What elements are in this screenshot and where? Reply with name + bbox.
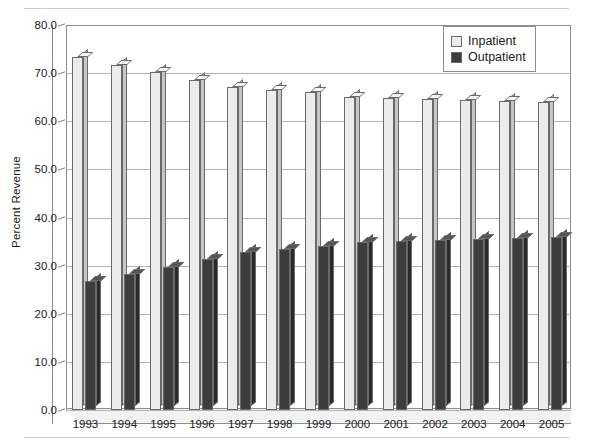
y-axis-tick-label: 10.0 (35, 356, 57, 368)
bar-side (290, 241, 295, 406)
y-axis-tick-mark (58, 119, 65, 123)
bar-face (189, 80, 200, 410)
bar-outpatient-2004 (512, 238, 523, 410)
bar-face (72, 57, 83, 410)
bar-top (504, 96, 520, 101)
bar-outpatient-1999 (318, 246, 329, 410)
y-axis-tick-mark (58, 168, 65, 172)
bar-face (266, 90, 277, 410)
bar-top (310, 87, 326, 92)
bar-side (523, 230, 528, 406)
bar-side (368, 234, 373, 406)
bar-top (271, 85, 287, 90)
bar-face (111, 65, 122, 410)
bar-side (407, 233, 412, 406)
bar-side (251, 244, 256, 406)
y-axis-title: Percent Revenue (10, 122, 22, 282)
bar-inpatient-2000 (344, 97, 355, 410)
bar-group (377, 25, 416, 410)
y-axis-tick-label: 80.0 (35, 19, 57, 31)
plot-area: 80.070.060.050.040.030.020.010.00.0 (66, 25, 571, 410)
bar-side (174, 259, 179, 406)
bar-face (85, 281, 96, 410)
bar-side (135, 266, 140, 406)
y-axis-tick-label: 0.0 (41, 404, 57, 416)
bar-group (338, 25, 377, 410)
bar-face (422, 99, 433, 410)
bar-group (260, 25, 299, 410)
bar-group (454, 25, 493, 410)
bar-group (493, 25, 532, 410)
y-axis-tick-mark (58, 312, 65, 316)
bar-outpatient-1997 (240, 252, 251, 410)
y-axis-tick-label: 20.0 (35, 308, 57, 320)
bar-face (435, 240, 446, 410)
bar-top (232, 82, 248, 87)
bar-face (357, 242, 368, 410)
bottom-divider-rule (24, 437, 569, 438)
bar-inpatient-1997 (227, 87, 238, 410)
bar-face (460, 100, 471, 410)
bar-face (512, 238, 523, 410)
bar-group (144, 25, 183, 410)
bar-inpatient-1996 (189, 80, 200, 410)
gridline (66, 410, 571, 411)
bar-inpatient-2004 (499, 101, 510, 410)
bar-top (427, 94, 443, 99)
bar-group (183, 25, 222, 410)
bar-face (383, 98, 394, 410)
legend-label: Outpatient (468, 50, 526, 64)
bar-outpatient-2001 (396, 241, 407, 410)
bar-inpatient-1995 (150, 72, 161, 410)
bar-top (543, 97, 559, 102)
bar-face (240, 252, 251, 410)
bar-outpatient-2002 (435, 240, 446, 410)
bar-face (551, 237, 562, 410)
bar-outpatient-1994 (124, 274, 135, 410)
bar-group (221, 25, 260, 410)
bar-top (465, 95, 481, 100)
bar-face (202, 259, 213, 410)
bar-face (344, 97, 355, 410)
bar-face (318, 246, 329, 410)
bar-face (396, 241, 407, 410)
bar-side (96, 273, 101, 406)
y-axis-tick-mark (58, 360, 65, 364)
bar-inpatient-2005 (538, 102, 549, 410)
bar-face (227, 87, 238, 410)
bar-inpatient-1999 (305, 92, 316, 410)
chart-legend: InpatientOutpatient (443, 26, 536, 72)
y-axis-tick-mark (58, 23, 65, 27)
y-axis-tick-mark (58, 71, 65, 75)
y-axis-tick-label: 70.0 (35, 67, 57, 79)
bar-face (305, 92, 316, 410)
bar-face (499, 101, 510, 410)
legend-swatch-outpatient (451, 52, 462, 63)
bar-outpatient-2000 (357, 242, 368, 410)
top-divider-rule (24, 8, 569, 9)
bar-group (105, 25, 144, 410)
bar-inpatient-1993 (72, 57, 83, 410)
bar-outpatient-2003 (473, 239, 484, 410)
bar-top (116, 60, 132, 65)
y-axis-tick-mark (58, 216, 65, 220)
bar-face (150, 72, 161, 410)
bar-outpatient-1995 (163, 267, 174, 410)
bar-side (484, 231, 489, 406)
y-axis-tick-label: 30.0 (35, 260, 57, 272)
bar-top (77, 52, 93, 57)
bar-face (163, 267, 174, 410)
bar-face (538, 102, 549, 410)
bar-side (329, 238, 334, 406)
bar-side (213, 251, 218, 406)
bar-top (556, 232, 572, 237)
y-axis-tick-label: 60.0 (35, 115, 57, 127)
bar-inpatient-2001 (383, 98, 394, 410)
legend-item-inpatient: Inpatient (451, 34, 526, 48)
x-axis-tick-label: 2005 (525, 418, 579, 430)
legend-item-outpatient: Outpatient (451, 50, 526, 64)
bar-top (349, 92, 365, 97)
legend-label: Inpatient (468, 34, 516, 48)
bar-inpatient-1998 (266, 90, 277, 410)
bar-group (532, 25, 571, 410)
